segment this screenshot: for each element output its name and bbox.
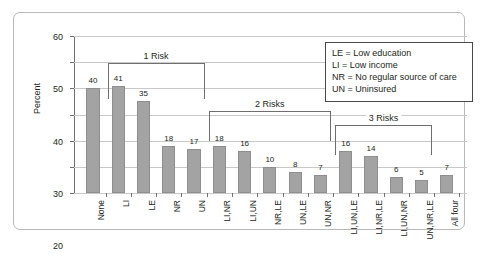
x-tick-mark [181,193,182,197]
bar [112,86,125,193]
bar [238,151,251,193]
x-tick-mark [308,193,309,197]
bar-value-label: 18 [164,135,173,143]
x-tick-mark [283,193,284,197]
x-axis-label: LI,UN [249,200,258,222]
bar [263,167,276,193]
bracket [335,125,432,155]
x-axis-label: UN [198,200,207,212]
bracket-label: 2 Risks [252,100,288,110]
x-tick-mark [384,193,385,197]
y-tick-mark: 50 [70,62,74,63]
x-tick-mark [358,193,359,197]
y-tick-mark: 60 [70,36,74,37]
y-tick-label: 60 [53,33,63,42]
y-tick-mark: 20 [70,141,74,142]
bar-value-label: 8 [293,161,297,169]
bar [137,101,150,193]
x-axis-label: UN,NR [324,200,333,227]
y-tick-label: 30 [53,190,63,199]
bar [213,146,226,193]
x-axis-label: LI,NR [223,200,232,222]
bar-value-label: 5 [419,169,423,177]
bar [86,88,99,193]
legend-entry: LI = Low income [332,59,466,71]
x-axis-label: LI,UN,LE [350,200,359,235]
x-axis-label: NR,LE [274,200,283,225]
x-tick-mark [156,193,157,197]
x-axis-label: UN,LE [299,200,308,225]
x-tick-mark [434,193,435,197]
legend-entry: NR = No regular source of care [332,71,466,83]
y-tick-mark: 30 [70,115,74,116]
bar-value-label: 6 [394,166,398,174]
bar [187,149,200,193]
y-tick-mark: 40 [70,88,74,89]
x-tick-mark [106,193,107,197]
bar-value-label: 17 [190,138,199,146]
gridline [74,36,467,37]
x-axis-label: LI [122,200,131,207]
bar [339,151,352,193]
bar [364,156,377,193]
bracket-label: 1 Risk [141,52,172,62]
bar-value-label: 10 [265,156,274,164]
x-axis-label: LI,NR,LE [375,200,384,235]
x-axis-label: None [97,200,106,220]
x-axis-label: All four [451,200,460,226]
bar-value-label: 16 [240,140,249,148]
x-tick-mark [333,193,334,197]
bar [390,177,403,193]
y-tick-label: 50 [53,85,63,94]
bracket [108,63,205,99]
x-tick-mark [207,193,208,197]
bar [289,172,302,193]
bar [314,175,327,193]
x-tick-mark [131,193,132,197]
legend-entry: LE = Low education [332,47,466,59]
y-tick-mark: 10 [70,167,74,168]
x-tick-mark [257,193,258,197]
x-axis-label: UN,NR,LE [426,200,435,240]
y-tick-mark: 0 [70,193,74,194]
chart-frame: Percent 0102030405060 40None41LI35LE18NR… [13,12,465,230]
bracket [209,111,331,141]
x-axis-label: NR [173,200,182,212]
bracket-label: 3 Risks [366,114,402,124]
bar [415,180,428,193]
legend-box: LE = Low educationLI = Low incomeNR = No… [325,42,473,102]
bar-value-label: 7 [318,164,322,172]
bar-value-label: 7 [445,164,449,172]
x-tick-mark [232,193,233,197]
x-tick-mark [459,193,460,197]
bar [162,146,175,193]
legend-entry: UN = Uninsured [332,83,466,95]
y-tick-label: 40 [53,137,63,146]
x-axis-label: LI,UN,NR [400,200,409,236]
bar [440,175,453,193]
bar-value-label: 40 [89,77,98,85]
y-tick-label: 20 [53,242,63,251]
x-axis-label: LE [148,200,157,210]
x-tick-mark [409,193,410,197]
y-axis-title: Percent [32,83,42,114]
